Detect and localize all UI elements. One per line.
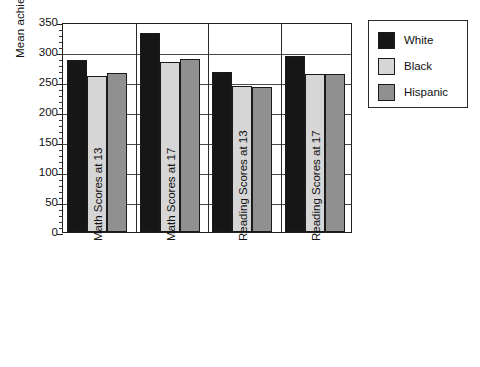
legend-item: Hispanic [378,80,467,104]
category-separator [136,24,137,232]
bar [252,87,272,232]
y-tick-mark-minor [59,180,63,181]
y-tick-mark-minor [59,90,63,91]
chart-figure: Mean achievement score 05010015020025030… [0,0,480,367]
y-tick-mark-minor [59,78,63,79]
y-tick-mark-minor [59,36,63,37]
y-tick-mark [57,114,63,115]
y-axis-tick-labels: 050100150200250300350 [28,0,58,367]
y-tick-mark-minor [59,72,63,73]
bar [285,56,305,232]
y-tick-label: 200 [28,107,58,119]
y-tick-mark-minor [59,228,63,229]
legend-swatch [378,32,395,49]
y-tick-label: 50 [28,197,58,209]
y-tick-mark-minor [59,216,63,217]
y-tick-mark-minor [59,156,63,157]
category-separator [208,24,209,232]
y-tick-mark-minor [59,102,63,103]
y-tick-mark [57,54,63,55]
y-tick-mark-minor [59,132,63,133]
bar [325,74,345,232]
legend-label: Hispanic [404,86,448,98]
y-tick-label: 300 [28,47,58,59]
y-tick-mark-minor [59,222,63,223]
legend-label: Black [404,60,432,72]
y-tick-mark-minor [59,150,63,151]
category-separator [281,24,282,232]
bar [67,60,87,232]
y-tick-mark-minor [59,138,63,139]
y-tick-label: 150 [28,137,58,149]
y-tick-mark-minor [59,192,63,193]
y-tick-label: 100 [28,167,58,179]
y-tick-mark-minor [59,60,63,61]
y-tick-mark-minor [59,210,63,211]
y-tick-label: 250 [28,77,58,89]
y-tick-label: 0 [28,227,58,239]
y-tick-label: 350 [28,17,58,29]
y-tick-mark-minor [59,186,63,187]
y-tick-mark-minor [59,120,63,121]
y-tick-mark-minor [59,126,63,127]
y-tick-mark [57,144,63,145]
bar [140,33,160,232]
x-tick-label: Reading Scores at 13 [237,130,249,241]
y-tick-mark-minor [59,198,63,199]
y-tick-mark-minor [59,30,63,31]
y-tick-mark-minor [59,168,63,169]
legend-label: White [404,34,433,46]
legend-swatch [378,84,395,101]
bar [107,73,127,232]
x-tick-label: Reading Scores at 17 [310,130,322,241]
legend-swatch [378,58,395,75]
y-tick-mark-minor [59,66,63,67]
bar [212,72,232,232]
y-tick-mark [57,84,63,85]
gridline [63,54,351,55]
y-tick-mark [57,234,63,235]
y-tick-mark-minor [59,48,63,49]
y-tick-mark [57,204,63,205]
y-tick-mark [57,24,63,25]
y-tick-mark-minor [59,108,63,109]
x-tick-label: Math Scores at 17 [165,148,177,241]
legend-item: Black [378,54,467,78]
plot-area [62,23,352,233]
y-tick-mark-minor [59,162,63,163]
y-tick-mark-minor [59,96,63,97]
x-tick-label: Math Scores at 13 [92,148,104,241]
bar [180,59,200,232]
y-tick-mark-minor [59,42,63,43]
y-tick-mark [57,174,63,175]
legend-item: White [378,28,467,52]
legend: WhiteBlackHispanic [368,20,468,108]
